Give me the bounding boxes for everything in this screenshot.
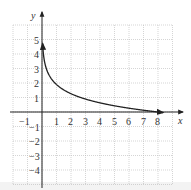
x-tick-label: 3: [83, 116, 88, 127]
y-axis-label: y: [30, 10, 36, 21]
log-curve: [43, 44, 163, 113]
y-tick-label: 2: [34, 78, 39, 89]
y-tick-label: −4: [29, 165, 40, 176]
y-tick-label: 4: [34, 49, 39, 60]
x-tick-label: 5: [112, 116, 117, 127]
y-tick-label: −3: [29, 151, 40, 162]
x-tick-label: 6: [126, 116, 131, 127]
y-tick-label: 1: [34, 93, 39, 104]
y-tick-label: −1: [29, 122, 40, 133]
x-tick-label: 8: [155, 116, 160, 127]
chart: x y −1 1 2 3 4 5 6 7 8 5 4 3 2 1 −1 −2 −…: [0, 0, 191, 190]
x-tick-label: 2: [68, 116, 73, 127]
x-tick-label: 7: [141, 116, 146, 127]
x-axis-label: x: [177, 115, 183, 126]
y-tick-label: −2: [29, 136, 40, 147]
x-tick-label: 4: [97, 116, 102, 127]
y-tick-label: 3: [34, 64, 39, 75]
x-tick-label: 1: [54, 116, 59, 127]
y-tick-label: 5: [34, 35, 39, 46]
